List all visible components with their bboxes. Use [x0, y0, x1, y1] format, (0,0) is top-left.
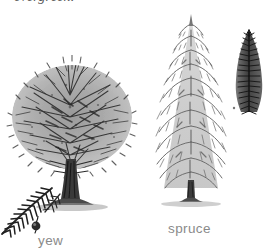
spruce-apex — [189, 14, 193, 26]
yew-sprig-detail — [0, 186, 62, 240]
label-yew: yew — [38, 233, 63, 248]
spruce-ground-shadow — [161, 201, 221, 207]
illustration-plate: evergreen. — [0, 0, 270, 251]
caption-evergreen: evergreen. — [14, 0, 74, 5]
spruce-sprig-detail — [228, 28, 270, 116]
spruce-tree-illustration — [148, 12, 234, 217]
yew-canopy — [12, 59, 132, 170]
label-spruce: spruce — [168, 221, 211, 236]
spruce-sprig-speck — [233, 107, 235, 109]
yew-sprig-frond — [2, 188, 60, 237]
